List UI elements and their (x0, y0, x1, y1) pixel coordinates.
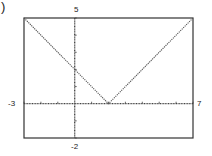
x-max-label: 7 (197, 100, 201, 108)
function-graph (24, 18, 193, 104)
y-max-label: 5 (74, 6, 78, 14)
graph-plot (0, 0, 212, 156)
x-min-label: -3 (8, 100, 15, 108)
curve-abs-x-minus-2 (24, 18, 193, 104)
viewing-window-frame (24, 18, 193, 138)
y-min-label: -2 (71, 143, 78, 151)
axes (24, 18, 193, 138)
